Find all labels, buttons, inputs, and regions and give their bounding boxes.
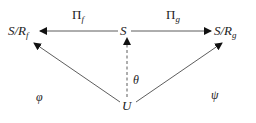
label-theta: θ bbox=[133, 74, 139, 86]
node-s: S bbox=[120, 24, 127, 37]
node-u: U bbox=[122, 99, 131, 112]
label-pi-g: Πg bbox=[166, 8, 180, 24]
label-pi-f: Πf bbox=[72, 8, 84, 24]
label-psi: ψ bbox=[211, 89, 218, 101]
pi-f-text: Π bbox=[72, 7, 81, 22]
node-left-text: S/R bbox=[8, 23, 26, 38]
node-s-mod-rf: S/Rf bbox=[8, 24, 29, 40]
arrow-phi bbox=[34, 43, 120, 102]
pi-g-text: Π bbox=[166, 7, 175, 22]
node-right-sub: g bbox=[232, 30, 237, 40]
node-bottom-text: U bbox=[122, 98, 131, 113]
node-center-text: S bbox=[120, 23, 127, 38]
arrow-psi bbox=[136, 43, 222, 102]
pi-f-sub: f bbox=[81, 14, 84, 24]
node-right-text: S/R bbox=[214, 23, 232, 38]
pi-g-sub: g bbox=[175, 14, 180, 24]
node-left-sub: f bbox=[26, 30, 29, 40]
label-phi: φ bbox=[36, 91, 43, 103]
node-s-mod-rg: S/Rg bbox=[214, 24, 237, 40]
